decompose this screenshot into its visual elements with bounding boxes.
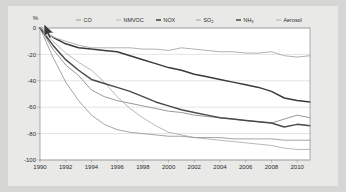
x-axis-label: 1994: [85, 164, 99, 170]
x-axis-label: 2008: [265, 164, 279, 170]
x-axis-label: 1998: [136, 164, 150, 170]
y-axis-label: -40: [27, 78, 36, 84]
chart-plot-wrapper: 0-20-40-60-80-100 1990199219941996199820…: [0, 0, 346, 192]
emissions-line-chart: 0-20-40-60-80-100 1990199219941996199820…: [0, 0, 346, 192]
y-axis-label: 0: [33, 25, 37, 31]
legend-label: SO2: [204, 17, 215, 24]
legend-label-subscript: 3: [251, 19, 254, 24]
legend-item-nmvoc[interactable]: NMVOC: [116, 17, 144, 23]
x-axis-label: 2010: [290, 164, 304, 170]
y-axis-label: -80: [27, 131, 36, 137]
x-axis-label: 2004: [213, 164, 227, 170]
y-axis-label: -60: [27, 104, 36, 110]
legend-label: CO: [84, 17, 92, 23]
x-axis-label: 1996: [110, 164, 124, 170]
legend-label: NH3: [244, 17, 255, 24]
y-axis-label: -100: [24, 157, 37, 163]
legend-item-so2[interactable]: SO2: [196, 17, 214, 24]
x-tick-marks: [40, 160, 297, 163]
y-axis-label: -20: [27, 52, 36, 58]
legend-label: NMVOC: [124, 17, 144, 23]
figure-container: 0-20-40-60-80-100 1990199219941996199820…: [0, 0, 346, 192]
x-axis-tick-labels: 1990199219941996199820002002200420062008…: [33, 164, 304, 170]
legend-label-subscript: 2: [211, 19, 214, 24]
y-axis-tick-labels: 0-20-40-60-80-100: [24, 25, 37, 163]
legend-item-nox[interactable]: NOX: [156, 17, 176, 23]
legend-item-nh3[interactable]: NH3: [236, 17, 254, 24]
legend-label: Aerosol: [284, 17, 302, 23]
legend-label: NOX: [164, 17, 176, 23]
x-axis-label: 1992: [59, 164, 73, 170]
y-axis-unit-label: %: [33, 15, 39, 21]
y-tick-marks: [38, 28, 41, 160]
x-axis-label: 1990: [33, 164, 47, 170]
chart-legend: CONMVOCNOXSO2NH3Aerosol: [76, 17, 302, 24]
x-axis-label: 2006: [239, 164, 253, 170]
x-axis-label: 2000: [162, 164, 176, 170]
legend-item-co[interactable]: CO: [76, 17, 92, 23]
legend-item-aerosol[interactable]: Aerosol: [276, 17, 302, 23]
x-axis-label: 2002: [188, 164, 202, 170]
